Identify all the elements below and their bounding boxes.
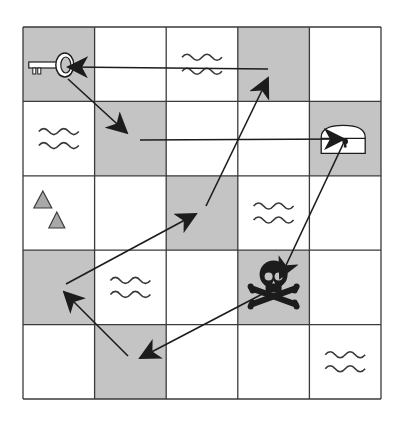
cell-r1-c2 xyxy=(95,27,167,101)
cell-r2-c1 xyxy=(23,101,95,175)
cell-r4-c5 xyxy=(309,250,381,324)
cell-r5-c5 xyxy=(309,325,381,399)
cell-r2-c3 xyxy=(166,101,238,175)
path-arrow-8 xyxy=(140,139,344,140)
cell-r1-c3 xyxy=(166,27,238,101)
cell-r5-c1 xyxy=(23,325,95,399)
cell-r4-c2 xyxy=(95,250,167,324)
cell-r5-c2 xyxy=(95,325,167,399)
cell-r5-c4 xyxy=(238,325,310,399)
cell-r3-c2 xyxy=(95,176,167,250)
cell-r3-c5 xyxy=(309,176,381,250)
cell-r1-c4 xyxy=(238,27,310,101)
cell-r4-c1 xyxy=(23,250,95,324)
cell-r5-c3 xyxy=(166,325,238,399)
treasure-map-grid xyxy=(0,0,403,422)
cell-r3-c3 xyxy=(166,176,238,250)
cell-r4-c3 xyxy=(166,250,238,324)
grid-cells xyxy=(23,27,381,399)
cell-r3-c1 xyxy=(23,176,95,250)
cell-r1-c5 xyxy=(309,27,381,101)
